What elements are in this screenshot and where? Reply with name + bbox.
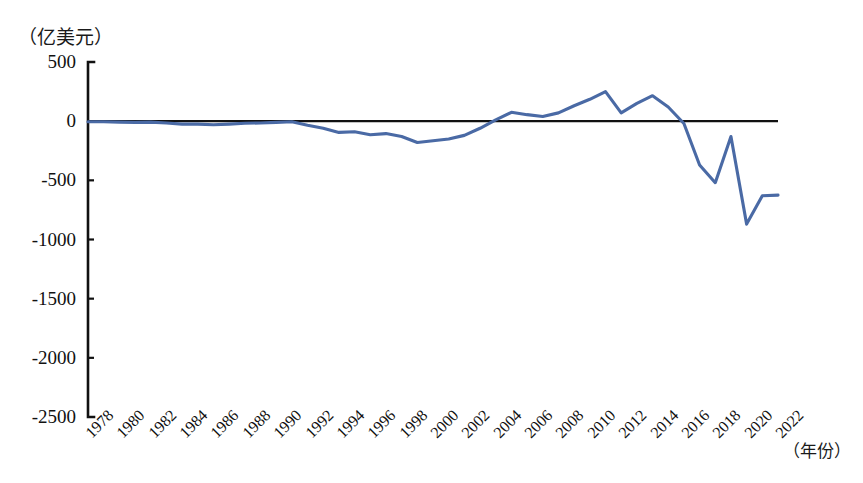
chart-container: （亿美元） （年份） 5000-500-1000-1500-2000-2500 … (0, 0, 863, 483)
y-axis-tick-label: -500 (0, 169, 76, 191)
y-axis-group (88, 62, 94, 417)
y-axis-tick-label: 500 (0, 51, 76, 73)
y-axis-tick-label: -2000 (0, 347, 76, 369)
y-axis-tick-label: 0 (0, 110, 76, 132)
data-series-line (88, 92, 778, 225)
y-axis-tick-label: -2500 (0, 406, 76, 428)
y-axis-tick-label: -1000 (0, 229, 76, 251)
y-axis-tick-label: -1500 (0, 288, 76, 310)
